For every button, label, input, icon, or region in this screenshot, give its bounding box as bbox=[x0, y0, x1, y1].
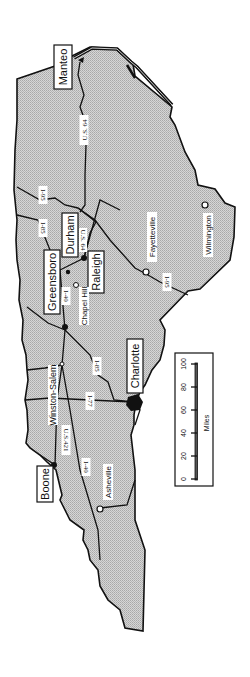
greensboro-marker bbox=[62, 324, 68, 330]
scale-tick-40: 40 bbox=[180, 429, 187, 437]
label-i77: I-77 bbox=[86, 395, 94, 407]
state-outline bbox=[14, 47, 235, 631]
label-winston-salem: Winston-Salem bbox=[48, 364, 58, 425]
label-i85: I-85 bbox=[93, 360, 101, 372]
winston-salem-marker bbox=[60, 362, 64, 366]
label-us64: U.S. 64 bbox=[81, 119, 89, 141]
scale-tick-80: 80 bbox=[180, 383, 187, 391]
label-greensboro: Greensboro bbox=[46, 253, 58, 311]
label-us64-durham: U.S. 64 bbox=[79, 229, 87, 251]
scale-unit-label: Miles bbox=[203, 414, 210, 431]
label-durham: Durham bbox=[64, 215, 76, 254]
label-i85-north: I-85 bbox=[39, 222, 47, 234]
label-i95: I-95 bbox=[163, 276, 171, 288]
asheville-marker bbox=[97, 506, 103, 512]
label-fayetteville: Fayetteville bbox=[148, 216, 157, 257]
north-carolina-map: Manteo Durham Raleigh Greensboro Charlot… bbox=[0, 0, 250, 677]
scale-tick-60: 60 bbox=[180, 406, 187, 414]
scale-bar: 0 20 40 60 80 100 Miles bbox=[175, 353, 213, 486]
label-i40: I-40 bbox=[62, 290, 70, 302]
label-asheville: Asheville bbox=[104, 465, 113, 498]
raleigh-marker bbox=[81, 255, 87, 261]
fayetteville-marker bbox=[143, 269, 149, 275]
scale-tick-100: 100 bbox=[180, 358, 187, 370]
wilmington-marker bbox=[202, 202, 208, 208]
label-wilmington: Wilmington bbox=[204, 215, 213, 255]
scale-tick-0: 0 bbox=[180, 477, 187, 481]
label-manteo: Manteo bbox=[57, 49, 69, 86]
label-us421: U.S.421 bbox=[62, 429, 70, 452]
label-boone: Boone bbox=[39, 468, 51, 500]
label-i40-west: I-40 bbox=[82, 461, 90, 473]
label-charlotte: Charlotte bbox=[129, 344, 141, 389]
label-i95-north: I-95 bbox=[39, 189, 47, 201]
label-chapel-hill: Chapel Hill bbox=[80, 286, 89, 325]
durham-junction-marker bbox=[66, 270, 70, 274]
label-raleigh: Raleigh bbox=[90, 253, 102, 290]
chapel-hill-marker bbox=[74, 283, 79, 288]
scale-tick-20: 20 bbox=[180, 452, 187, 460]
